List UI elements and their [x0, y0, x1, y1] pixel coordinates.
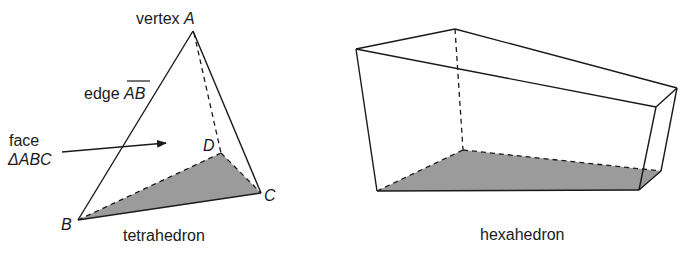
face-label-line2: ΔABC [7, 151, 52, 168]
face-arrow [62, 143, 166, 152]
vertex-a-label: vertex A [136, 10, 195, 27]
edge-top-front [356, 49, 656, 107]
polyhedra-diagram: vertex A edge AB face ΔABC D C B tetrahe… [0, 0, 680, 262]
edge-ab-label: edge AB [84, 85, 146, 102]
edge-vertical-left [356, 49, 377, 191]
tetrahedron-caption: tetrahedron [123, 227, 205, 244]
vertex-c-label: C [264, 187, 276, 204]
edge-top-back [455, 29, 677, 88]
edge-bottom-front [377, 190, 639, 191]
hexahedron-caption: hexahedron [480, 226, 565, 243]
hidden-edge-vertical [455, 29, 463, 150]
face-label-line1: face [9, 132, 39, 149]
base-face-bdc [78, 153, 261, 220]
edge-top-left [356, 29, 455, 49]
vertex-d-label: D [203, 137, 215, 154]
vertex-b-label: B [61, 216, 72, 233]
tetrahedron: vertex A edge AB face ΔABC D C B tetrahe… [7, 10, 276, 244]
hexahedron: hexahedron [356, 29, 677, 243]
hidden-edge-ad [194, 33, 221, 153]
